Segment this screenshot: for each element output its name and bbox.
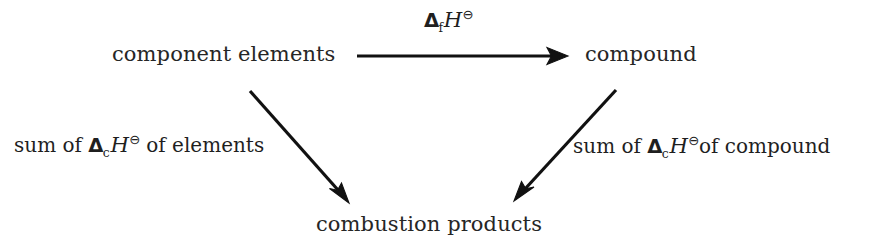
node-component-elements: component elements (112, 42, 335, 66)
delta-glyph: Δ (647, 135, 662, 158)
enthalpy-glyph: H (110, 132, 128, 157)
formation-arrow (357, 48, 568, 65)
plimsoll-glyph: ⊖ (463, 7, 474, 22)
right-combustion-suffix: of compound (699, 134, 830, 158)
left-combustion-subscript: c (103, 145, 110, 160)
left-combustion-suffix: of elements (140, 133, 264, 157)
enthalpy-glyph: H (444, 7, 462, 32)
right-combustion-subscript: c (662, 146, 669, 161)
left-combustion-prefix: sum of (14, 133, 88, 157)
node-compound: compound (585, 42, 697, 66)
node-combustion-products: combustion products (316, 212, 542, 236)
delta-glyph: Δ (88, 134, 103, 157)
edge-label-compound-combustion: sum of ΔcH⊖of compound (573, 133, 830, 158)
edge-label-formation-enthalpy: ΔfH⊖ (424, 7, 473, 32)
left-combustion-enthalpy-symbol: ΔcH⊖ (88, 132, 140, 157)
right-combustion-prefix: sum of (573, 134, 647, 158)
elements-combustion-arrow-head (330, 183, 350, 203)
compound-combustion-arrow-head (514, 182, 534, 202)
thermochemical-cycle-diagram: component elements compound combustion p… (0, 0, 879, 251)
formation-arrow-head (547, 48, 568, 65)
formation-subscript: f (438, 20, 443, 35)
plimsoll-glyph: ⊖ (129, 132, 140, 147)
edge-label-elements-combustion: sum of ΔcH⊖ of elements (14, 132, 264, 157)
enthalpy-glyph: H (669, 133, 687, 158)
delta-glyph: Δ (424, 9, 439, 32)
plimsoll-glyph: ⊖ (688, 133, 699, 148)
right-combustion-enthalpy-symbol: ΔcH⊖ (647, 133, 699, 158)
elements-combustion-arrow (250, 91, 349, 203)
formation-enthalpy-symbol: ΔfH⊖ (424, 7, 473, 32)
